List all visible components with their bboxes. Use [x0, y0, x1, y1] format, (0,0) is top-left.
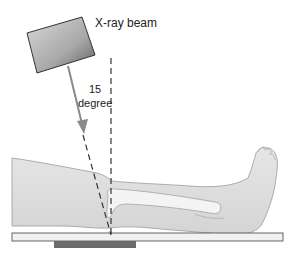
angle-unit: degree — [78, 96, 112, 110]
angle-label: 15 degree — [78, 82, 112, 110]
beam-arrow-head — [77, 119, 88, 134]
angle-value: 15 — [78, 82, 112, 96]
xray-tube — [27, 17, 95, 73]
xray-beam-label: X-ray beam — [95, 16, 157, 30]
diagram-canvas — [0, 0, 296, 260]
film-cassette — [54, 241, 136, 248]
leg-shape — [12, 147, 277, 234]
table — [12, 233, 283, 241]
xray-positioning-diagram: X-ray beam 15 degree — [0, 0, 296, 260]
